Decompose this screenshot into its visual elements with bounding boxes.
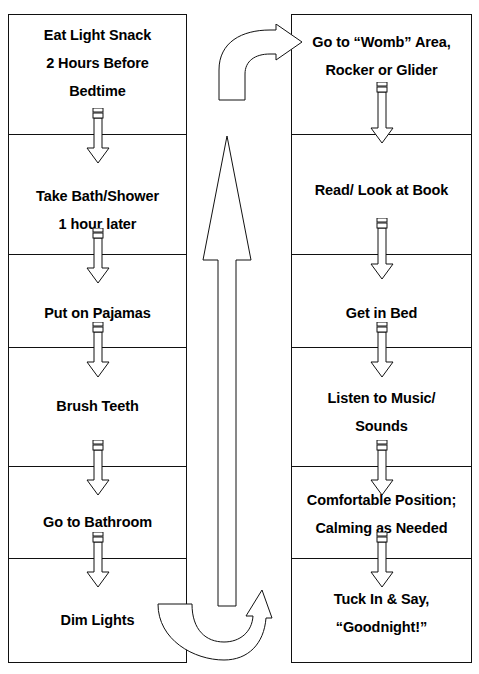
step-line: 2 Hours Before xyxy=(9,56,186,71)
left-column: Eat Light Snack 2 Hours Before Bedtime T… xyxy=(8,14,187,663)
step-line: Sounds xyxy=(292,419,471,434)
flowchart-canvas: Eat Light Snack 2 Hours Before Bedtime T… xyxy=(0,0,479,674)
top-curve-arrow-icon xyxy=(214,24,306,106)
step-line: Calming as Needed xyxy=(292,521,471,536)
step-line: Go to Bathroom xyxy=(9,515,186,530)
step-line: Eat Light Snack xyxy=(9,28,186,43)
step-listen-to-music[interactable]: Listen to Music/ Sounds xyxy=(292,348,471,467)
step-line: Listen to Music/ xyxy=(292,391,471,406)
step-line: Take Bath/Shower xyxy=(9,189,186,204)
step-get-in-bed[interactable]: Get in Bed xyxy=(292,255,471,348)
step-eat-light-snack[interactable]: Eat Light Snack 2 Hours Before Bedtime xyxy=(9,15,186,135)
step-go-to-womb-area[interactable]: Go to “Womb” Area, Rocker or Glider xyxy=(292,15,471,135)
step-take-bath-shower[interactable]: Take Bath/Shower 1 hour later xyxy=(9,135,186,255)
right-column: Go to “Womb” Area, Rocker or Glider Read… xyxy=(291,14,472,663)
step-line: Tuck In & Say, xyxy=(292,592,471,607)
step-line: Read/ Look at Book xyxy=(292,183,471,198)
step-line: Put on Pajamas xyxy=(9,306,186,321)
step-line: Go to “Womb” Area, xyxy=(292,35,471,50)
step-line: “Goodnight!” xyxy=(292,620,471,635)
step-line: Get in Bed xyxy=(292,306,471,321)
center-up-arrow-icon xyxy=(196,132,258,614)
step-go-to-bathroom[interactable]: Go to Bathroom xyxy=(9,467,186,559)
bottom-u-turn-arrow-icon xyxy=(156,578,274,668)
step-line: Comfortable Position; xyxy=(292,493,471,508)
step-line: Rocker or Glider xyxy=(292,63,471,78)
step-read-look-at-book[interactable]: Read/ Look at Book xyxy=(292,135,471,255)
step-tuck-in-and-say[interactable]: Tuck In & Say, “Goodnight!” xyxy=(292,559,471,662)
step-brush-teeth[interactable]: Brush Teeth xyxy=(9,348,186,467)
step-comfortable-position[interactable]: Comfortable Position; Calming as Needed xyxy=(292,467,471,559)
step-line: 1 hour later xyxy=(9,217,186,232)
step-put-on-pajamas[interactable]: Put on Pajamas xyxy=(9,255,186,348)
step-line: Bedtime xyxy=(9,84,186,99)
step-line: Brush Teeth xyxy=(9,399,186,414)
